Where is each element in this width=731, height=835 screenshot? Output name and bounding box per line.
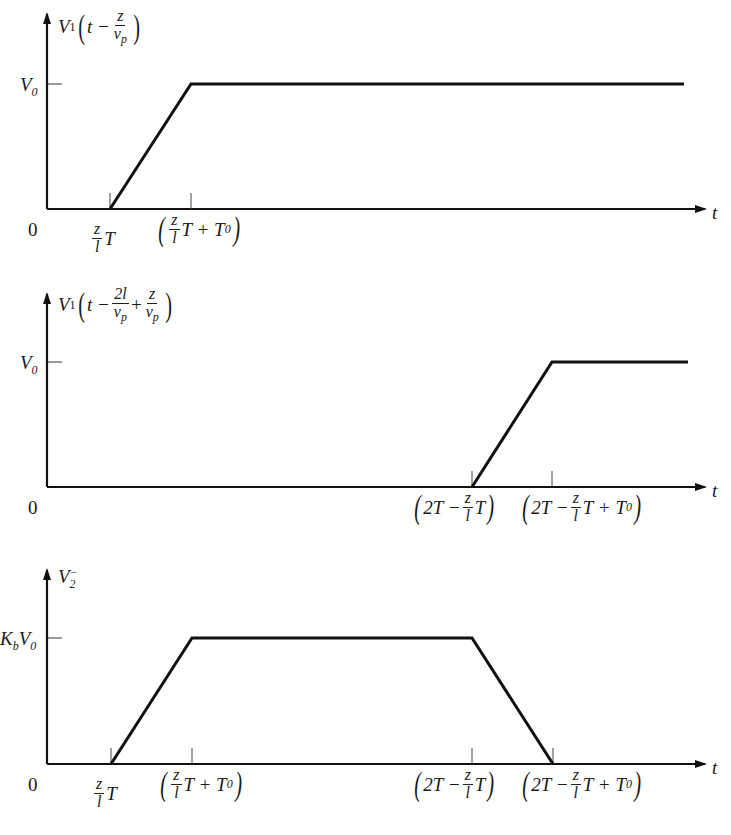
x-tick-label-2: (zlT + T0) bbox=[158, 767, 244, 802]
tick-post: V bbox=[19, 628, 31, 649]
label-sub: 1 bbox=[70, 21, 76, 33]
waveform-line bbox=[111, 638, 553, 764]
paren-close: ) bbox=[233, 212, 240, 246]
fraction: zl bbox=[169, 212, 179, 247]
y-axis-label-top: V1 ( t − z vp ) bbox=[58, 8, 142, 46]
label-plus: + bbox=[131, 295, 142, 314]
tick-base: K bbox=[0, 628, 13, 649]
label-sub: 1 bbox=[70, 299, 76, 311]
tick-pre: 2T − bbox=[423, 775, 460, 794]
x-axis-label-t: t bbox=[712, 481, 717, 500]
frac-den: l bbox=[172, 785, 180, 802]
paren-open: ( bbox=[522, 490, 529, 524]
label-arg: t − bbox=[87, 295, 110, 314]
frac-num: z bbox=[463, 767, 473, 785]
tick-post: T + T bbox=[583, 775, 626, 794]
waveform-diagram bbox=[0, 0, 731, 835]
tick-post-sub: 0 bbox=[626, 778, 632, 790]
frac-num: z bbox=[115, 8, 125, 26]
frac-num: 2l bbox=[112, 286, 128, 304]
fraction: zl bbox=[94, 776, 104, 811]
fraction: zl bbox=[571, 490, 581, 525]
paren-open: ( bbox=[158, 212, 165, 246]
paren-open: ( bbox=[414, 767, 421, 801]
x-tick-label-2: (2T −zlT + T0) bbox=[520, 490, 643, 525]
tick-pre: 2T − bbox=[531, 775, 568, 794]
fraction: z vp bbox=[112, 8, 129, 46]
frac-num: z bbox=[92, 221, 102, 239]
fraction: zl bbox=[92, 221, 102, 256]
tick-post-sub: 0 bbox=[626, 501, 632, 513]
frac-den: l bbox=[464, 785, 472, 802]
frac-num: z bbox=[171, 767, 181, 785]
origin-label: 0 bbox=[28, 775, 38, 794]
frac-den: l bbox=[95, 794, 103, 811]
frac-den: l bbox=[464, 508, 472, 525]
x-axis-label-t: t bbox=[712, 758, 717, 777]
frac-den: v bbox=[146, 303, 153, 320]
x-tick-label-4: (2T −zlT + T0) bbox=[520, 767, 643, 802]
x-tick-label-1: zlT bbox=[90, 218, 115, 256]
origin-label: 0 bbox=[28, 498, 38, 517]
paren-close: ) bbox=[634, 490, 641, 524]
panel-bottom bbox=[47, 570, 705, 764]
label-base: V bbox=[58, 17, 70, 36]
tick-sub: 0 bbox=[32, 363, 38, 377]
x-tick-label-1: (2T −zlT) bbox=[412, 490, 497, 525]
paren-close: ) bbox=[133, 10, 140, 44]
panel-top bbox=[47, 14, 705, 209]
fraction: zl bbox=[571, 767, 581, 802]
tick-post: T + T bbox=[182, 220, 225, 239]
frac-num: z bbox=[147, 286, 157, 304]
label-arg: t − bbox=[87, 17, 110, 36]
tick-post: T + T bbox=[583, 498, 626, 517]
paren-close: ) bbox=[165, 288, 172, 322]
origin-label: 0 bbox=[28, 220, 38, 239]
y-axis-label-middle: V1 ( t − 2l vp + z vp ) bbox=[58, 286, 174, 324]
fraction-1: 2l vp bbox=[112, 286, 129, 324]
tick-post: T bbox=[475, 775, 486, 794]
frac-den-sub: p bbox=[121, 310, 127, 324]
frac-num: z bbox=[94, 776, 104, 794]
tick-post-sub: 0 bbox=[227, 778, 233, 790]
y-tick-label-v0: V0 bbox=[20, 75, 38, 98]
frac-den: l bbox=[170, 230, 178, 247]
frac-den: v bbox=[114, 25, 121, 42]
frac-den-sub: p bbox=[121, 32, 127, 46]
tick-post: T bbox=[475, 498, 486, 517]
label-sub: 2 bbox=[70, 577, 76, 591]
label-base: V bbox=[58, 566, 70, 587]
y-axis-label-bottom: V2− bbox=[58, 566, 78, 590]
x-axis-label-t: t bbox=[712, 203, 717, 222]
fraction: zl bbox=[171, 767, 181, 802]
frac-den: l bbox=[93, 239, 101, 256]
frac-den: l bbox=[572, 508, 580, 525]
paren-close: ) bbox=[488, 767, 495, 801]
paren-close: ) bbox=[488, 490, 495, 524]
tick-base: V bbox=[20, 352, 32, 373]
paren-open: ( bbox=[522, 767, 529, 801]
tick-post: T + T bbox=[184, 775, 227, 794]
tick-pre: 2T − bbox=[423, 498, 460, 517]
tick-base: V bbox=[20, 74, 32, 95]
waveform-line bbox=[472, 362, 688, 487]
tick-post-sub: 0 bbox=[225, 223, 231, 235]
label-sup: − bbox=[70, 565, 78, 579]
y-tick-label-kbv0: KbV0 bbox=[0, 629, 36, 652]
paren-open: ( bbox=[78, 288, 85, 322]
frac-den: l bbox=[572, 785, 580, 802]
tick-sub: 0 bbox=[32, 85, 38, 99]
label-base: V bbox=[58, 295, 70, 314]
paren-open: ( bbox=[414, 490, 421, 524]
paren-close: ) bbox=[235, 767, 242, 801]
frac-num: z bbox=[571, 767, 581, 785]
frac-den-sub: p bbox=[153, 310, 159, 324]
x-tick-label-1: zlT bbox=[92, 773, 117, 811]
fraction-2: z vp bbox=[144, 286, 161, 324]
tick-post-sub: 0 bbox=[30, 639, 36, 653]
paren-open: ( bbox=[160, 767, 167, 801]
frac-num: z bbox=[463, 490, 473, 508]
fraction: zl bbox=[463, 490, 473, 525]
waveform-line bbox=[110, 84, 684, 209]
paren-close: ) bbox=[634, 767, 641, 801]
